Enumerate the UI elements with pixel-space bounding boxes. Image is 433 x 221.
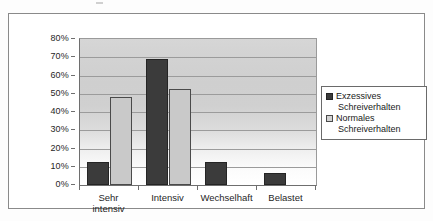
chart-frame: 80%70%60%50%40%30%20%10%0% SehrintensivI… (8, 13, 425, 209)
bar (87, 162, 109, 185)
x-axis-tick (256, 186, 257, 190)
bar (264, 173, 286, 185)
x-axis-tick (197, 186, 198, 190)
y-axis-tick (71, 184, 75, 185)
y-axis-tick (71, 166, 75, 167)
legend-label: NormalesSchreiverhalten (336, 113, 401, 134)
bar (110, 97, 132, 185)
y-axis-tick (71, 148, 75, 149)
y-axis-tick (71, 75, 75, 76)
y-axis: 80%70%60%50%40%30%20%10%0% (17, 28, 75, 198)
bar-groups (80, 39, 316, 185)
bar (146, 59, 168, 185)
legend-swatch-icon (326, 93, 333, 100)
y-axis-tick-label: 80% (50, 34, 69, 43)
y-axis-tick-label: 40% (50, 107, 69, 116)
bar-group (257, 39, 316, 185)
y-axis-tick-label: 60% (50, 71, 69, 80)
y-axis-tick (71, 56, 75, 57)
x-axis-labels: SehrintensivIntensivWechselhaftBelastet (65, 192, 331, 221)
x-axis-tick (79, 186, 80, 190)
bar-group (80, 39, 139, 185)
y-axis-tick-label: 0% (56, 180, 69, 189)
y-axis-tick-label: 20% (50, 144, 69, 153)
y-axis-tick-label: 70% (50, 52, 69, 61)
x-axis-tick (138, 186, 139, 190)
bar (205, 162, 227, 185)
x-axis-ticks (79, 186, 317, 191)
chart-screenshot: 80%70%60%50%40%30%20%10%0% SehrintensivI… (0, 0, 433, 221)
y-axis-tick-label: 50% (50, 89, 69, 98)
legend: ExzessivesSchreiverhaltenNormalesSchreiv… (321, 86, 427, 140)
y-axis-tick (71, 129, 75, 130)
plot-area (79, 38, 317, 186)
y-axis-tick (71, 38, 75, 39)
legend-item: ExzessivesSchreiverhalten (326, 91, 423, 112)
y-axis-tick (71, 93, 75, 94)
y-axis-tick-label: 10% (50, 162, 69, 171)
scan-artifact (96, 2, 103, 4)
x-axis-category-label: Belastet (244, 192, 327, 203)
bar-group (198, 39, 257, 185)
y-axis-tick-label: 30% (50, 125, 69, 134)
legend-swatch-icon (326, 115, 333, 122)
legend-item: NormalesSchreiverhalten (326, 113, 423, 134)
legend-label: ExzessivesSchreiverhalten (336, 91, 401, 112)
y-axis-tick (71, 111, 75, 112)
bar-group (139, 39, 198, 185)
x-axis-tick (315, 186, 316, 190)
bar (169, 89, 191, 185)
